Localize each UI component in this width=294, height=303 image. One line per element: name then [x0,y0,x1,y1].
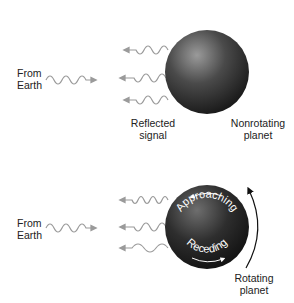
reflected-wave-receding [122,244,168,252]
nonrotating-planet-label: Nonrotating planet [222,117,294,141]
diagram-canvas: Approaching Receding [0,0,294,303]
reflected-signal-label: Reflected signal [118,117,188,141]
incoming-wave-bottom [46,224,94,232]
label-line: planet [224,284,284,296]
label-line: Rotating [224,272,284,284]
from-earth-label-top: From Earth [17,67,42,91]
label-line: Reflected [118,117,188,129]
label-line: Nonrotating [222,117,294,129]
label-line: From [17,217,42,229]
reflected-wave-approaching [122,197,168,204]
reflected-wave-1 [126,46,168,54]
top-panel [46,30,249,114]
reflected-wave-3 [126,96,168,104]
label-line: signal [118,129,188,141]
incoming-wave-top [46,76,94,84]
label-line: From [17,67,42,79]
reflected-wave-2 [122,74,166,82]
label-line: Earth [17,229,42,241]
label-line: planet [222,129,294,141]
bottom-panel: Approaching Receding [46,185,258,269]
nonrotating-planet-sphere [165,30,249,114]
label-line: Earth [17,79,42,91]
reflected-wave-center [122,223,166,231]
from-earth-label-bottom: From Earth [17,217,42,241]
rotating-planet-label: Rotating planet [224,272,284,296]
